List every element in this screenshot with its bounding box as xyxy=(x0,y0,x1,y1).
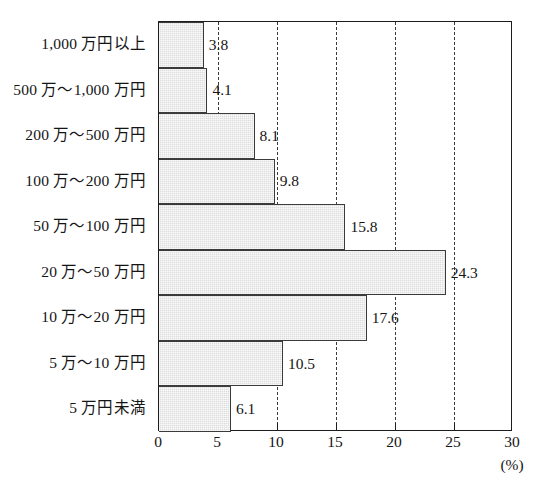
bar-row: 4.1 xyxy=(159,68,511,114)
bar xyxy=(159,386,231,432)
bar xyxy=(159,341,283,387)
bar-value-label: 3.8 xyxy=(204,22,228,68)
category-label: 20 万～50 万円 xyxy=(41,249,146,295)
bar-row: 3.8 xyxy=(159,22,511,68)
bar-chart: 1,000 万円以上500 万～1,000 万円200 万～500 万円100 … xyxy=(0,0,540,493)
bar-value-label: 15.8 xyxy=(345,204,377,250)
category-label: 500 万～1,000 万円 xyxy=(13,67,146,113)
bar-value-label: 4.1 xyxy=(207,68,231,114)
value-tick-label: 10 xyxy=(268,433,284,451)
plot-area: 3.84.18.19.815.824.317.610.56.1 xyxy=(158,21,512,431)
bar-value-label: 9.8 xyxy=(275,159,299,205)
category-label: 10 万～20 万円 xyxy=(41,294,146,340)
bar-value-label: 8.1 xyxy=(255,113,279,159)
bar-row: 24.3 xyxy=(159,250,511,296)
value-axis: 051015202530 xyxy=(158,433,512,457)
bar xyxy=(159,295,367,341)
bar-row: 10.5 xyxy=(159,341,511,387)
bar-value-label: 6.1 xyxy=(231,386,255,432)
category-label: 50 万～100 万円 xyxy=(33,203,146,249)
bar-row: 8.1 xyxy=(159,113,511,159)
category-label: 100 万～200 万円 xyxy=(25,158,146,204)
bar-row: 17.6 xyxy=(159,295,511,341)
bar xyxy=(159,204,345,250)
bar-value-label: 17.6 xyxy=(367,295,399,341)
category-label: 1,000 万円以上 xyxy=(41,21,146,67)
bar-row: 15.8 xyxy=(159,204,511,250)
category-label: 5 万円未満 xyxy=(69,385,146,431)
axis-unit-label: (%) xyxy=(500,456,523,474)
bar-value-label: 10.5 xyxy=(283,341,315,387)
bar xyxy=(159,22,204,68)
value-tick-label: 20 xyxy=(386,433,402,451)
bar-value-label: 24.3 xyxy=(446,250,478,296)
bar xyxy=(159,113,255,159)
category-label: 5 万～10 万円 xyxy=(49,340,146,386)
value-tick-label: 15 xyxy=(327,433,343,451)
bar-row: 6.1 xyxy=(159,386,511,432)
category-label: 200 万～500 万円 xyxy=(25,112,146,158)
value-tick-label: 30 xyxy=(504,433,520,451)
bar xyxy=(159,68,207,114)
bar-row: 9.8 xyxy=(159,159,511,205)
category-axis: 1,000 万円以上500 万～1,000 万円200 万～500 万円100 … xyxy=(0,21,152,431)
bar xyxy=(159,250,446,296)
value-tick-label: 25 xyxy=(445,433,461,451)
bar xyxy=(159,159,275,205)
value-tick-label: 5 xyxy=(213,433,221,451)
value-tick-label: 0 xyxy=(154,433,162,451)
